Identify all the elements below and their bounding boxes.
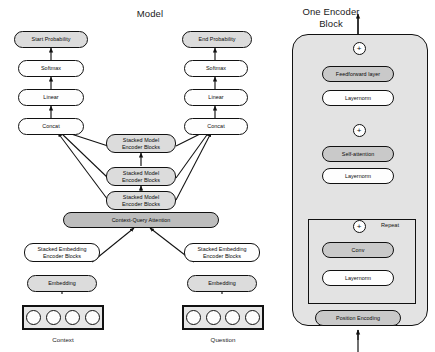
box-softmax-start[interactable]: Softmax (18, 60, 84, 77)
box-stacked-model-encoder-1[interactable]: Stacked Model Encoder Blocks (106, 134, 176, 153)
box-context-query-attention[interactable]: Context-Query Attention (63, 212, 219, 228)
box-stacked-embedding-encoder-question[interactable]: Stacked Embedding Encoder Blocks (184, 243, 260, 262)
box-layernorm-selfattention[interactable]: Layernorm (322, 168, 394, 184)
box-feedforward-layer[interactable]: Feedforward layer (322, 66, 394, 82)
box-layernorm-feedforward[interactable]: Layernorm (322, 90, 394, 106)
figure-canvas: Model One Encoder Block Start Probabilit… (0, 0, 435, 352)
box-end-probability[interactable]: End Probability (182, 31, 252, 48)
caption-context: Context (22, 336, 104, 343)
token-circle (186, 310, 201, 325)
plus-glyph: + (357, 127, 362, 135)
box-stacked-embedding-encoder-context[interactable]: Stacked Embedding Encoder Blocks (24, 243, 100, 262)
plus-glyph: + (357, 223, 362, 231)
repeat-label: Repeat (381, 222, 399, 228)
token-box-question[interactable] (182, 305, 264, 330)
token-circle (65, 310, 80, 325)
left-panel-title: Model (110, 8, 190, 19)
add-selfattention-icon: + (353, 124, 366, 137)
seeq-line2: Encoder Blocks (203, 253, 241, 259)
box-self-attention[interactable]: Self-attention (322, 146, 394, 162)
smeb1-line2: Encoder Blocks (122, 144, 160, 150)
box-concat-start[interactable]: Concat (18, 118, 84, 135)
box-embedding-context[interactable]: Embedding (27, 275, 97, 292)
plus-glyph: + (357, 45, 362, 53)
token-circle (85, 310, 100, 325)
caption-question: Question (182, 336, 264, 343)
box-start-probability[interactable]: Start Probability (14, 31, 88, 48)
box-layernorm-conv[interactable]: Layernorm (322, 270, 394, 286)
right-panel-title-line2: Block (288, 18, 374, 29)
box-concat-end[interactable]: Concat (184, 118, 248, 135)
box-linear-end[interactable]: Linear (184, 89, 248, 106)
box-conv[interactable]: Conv (322, 242, 394, 258)
right-panel-title-line1: One Encoder (288, 6, 374, 17)
token-circle (46, 310, 61, 325)
token-circle (225, 310, 240, 325)
token-circle (206, 310, 221, 325)
smeb3-line2: Encoder Blocks (122, 201, 160, 207)
box-position-encoding[interactable]: Position Encoding (315, 310, 401, 326)
box-stacked-model-encoder-2[interactable]: Stacked Model Encoder Blocks (106, 167, 176, 186)
smeb2-line2: Encoder Blocks (122, 177, 160, 183)
box-stacked-model-encoder-3[interactable]: Stacked Model Encoder Blocks (106, 191, 176, 210)
seec-line2: Encoder Blocks (43, 253, 81, 259)
box-embedding-question[interactable]: Embedding (187, 275, 257, 292)
token-circle (245, 310, 260, 325)
add-conv-icon: + (353, 220, 366, 233)
box-linear-start[interactable]: Linear (18, 89, 84, 106)
box-softmax-end[interactable]: Softmax (184, 60, 248, 77)
token-box-context[interactable] (22, 305, 104, 330)
token-circle (26, 310, 41, 325)
add-feedforward-icon: + (353, 42, 366, 55)
